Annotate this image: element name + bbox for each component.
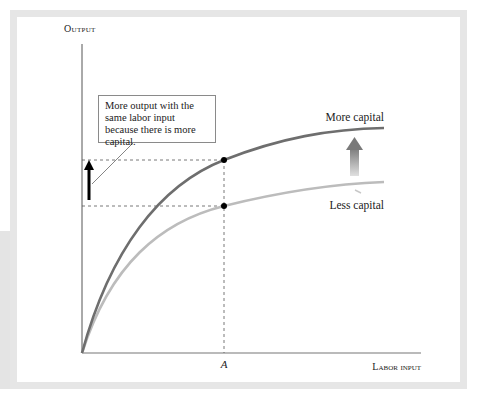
callout-leader-line	[92, 143, 133, 184]
capital-shift-arrow-icon	[346, 137, 363, 176]
x-axis-label: Labor input	[372, 361, 421, 372]
callout-box: More output with the same labor input be…	[98, 95, 216, 143]
less-capital-label: Less capital	[329, 199, 384, 212]
more-capital-curve	[82, 128, 384, 353]
production-function-chart: Output Labor input A More capital Less c…	[0, 0, 482, 397]
output-increase-arrow-icon	[84, 160, 94, 200]
more-capital-label: More capital	[326, 111, 384, 124]
point-more-capital-at-a	[221, 157, 227, 163]
point-less-capital-at-a	[221, 203, 227, 209]
less-capital-label-tick	[355, 190, 361, 193]
y-axis-label: Output	[64, 23, 96, 34]
callout-text: More output with the same labor input be…	[105, 100, 196, 147]
x-tick-a: A	[220, 358, 228, 370]
